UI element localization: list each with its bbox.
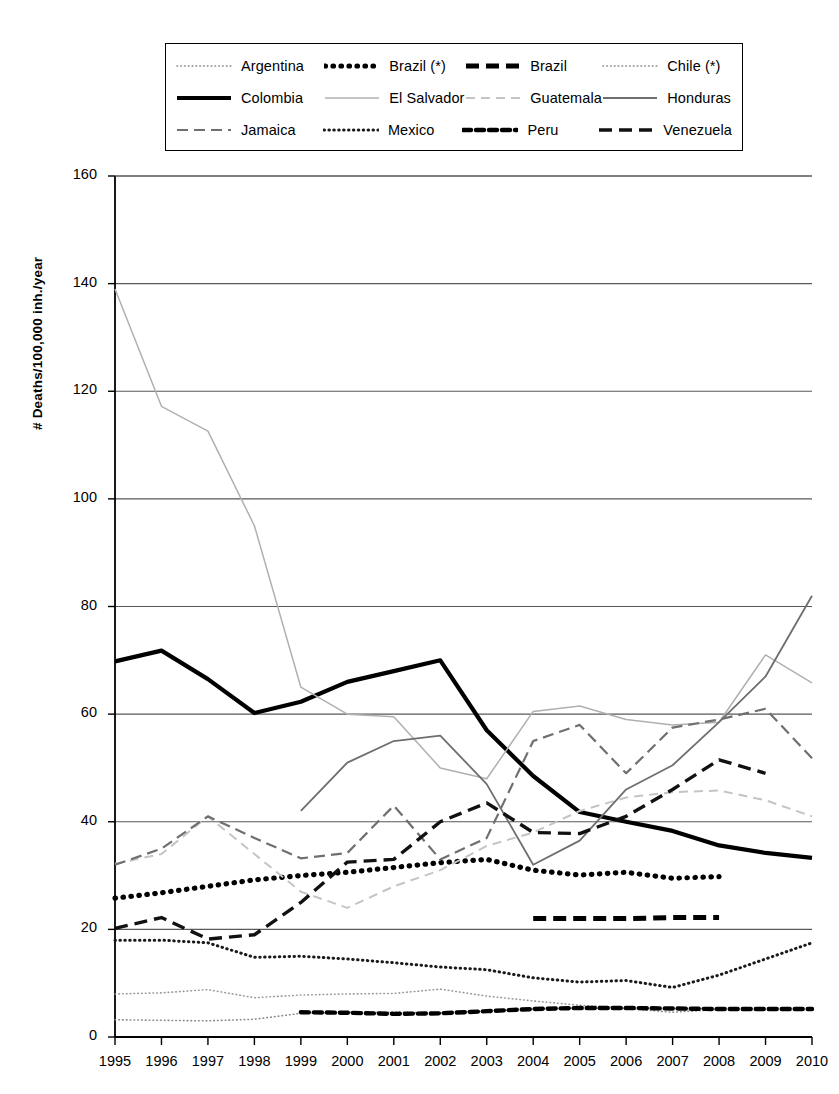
y-tick-marks: [108, 176, 115, 1037]
data-series-group: [115, 289, 812, 1021]
y-tick-label: 120: [53, 381, 97, 397]
series-line-honduras: [301, 596, 812, 865]
y-tick-label: 80: [53, 597, 97, 613]
y-tick-label: 60: [53, 704, 97, 720]
y-tick-label: 0: [53, 1027, 97, 1043]
x-tick-marks: [115, 1037, 812, 1045]
gridlines: [115, 176, 812, 929]
y-tick-label: 140: [53, 274, 97, 290]
x-tick-label: 2010: [782, 1053, 839, 1069]
y-tick-label: 160: [53, 166, 97, 182]
chart-figure: ArgentinaBrazil (*)BrazilChile (*) Colom…: [0, 0, 839, 1094]
y-tick-label: 100: [53, 489, 97, 505]
series-line-el-salvador: [115, 289, 812, 779]
plot-area: [0, 0, 839, 1094]
series-line-mexico: [115, 940, 812, 987]
y-tick-label: 20: [53, 919, 97, 935]
series-line-venezuela: [115, 760, 766, 939]
series-line-brazil: [533, 918, 719, 919]
y-tick-label: 40: [53, 812, 97, 828]
series-line-chile: [115, 989, 719, 1008]
series-line-peru: [301, 1008, 812, 1014]
